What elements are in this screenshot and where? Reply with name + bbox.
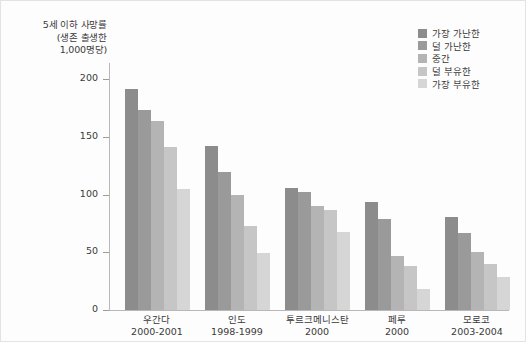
bar: [378, 219, 391, 310]
x-axis-group-label: 모로코2003-2004: [451, 314, 503, 338]
y-tick-label: 50: [86, 245, 98, 256]
y-tick-label: 100: [80, 188, 98, 199]
legend: 가장 가난한덜 가난한중간덜 부유한가장 부유한: [418, 27, 480, 90]
bar-group: 투르크메니스탄2000: [285, 62, 350, 310]
bar: [151, 121, 164, 310]
y-tick-mark: [103, 252, 109, 253]
legend-item: 덜 부유한: [418, 65, 480, 78]
bar: [324, 210, 337, 310]
bar-group: 모로코2003-2004: [445, 62, 510, 310]
bar: [391, 256, 404, 310]
bar: [417, 289, 430, 310]
x-axis-year-label: 2000-2001: [131, 326, 183, 338]
bar: [311, 206, 324, 310]
bar-group: 인도1998-1999: [205, 62, 270, 310]
bar: [458, 233, 471, 310]
y-tick-mark: [103, 137, 109, 138]
y-tick-mark: [103, 195, 109, 196]
bar: [365, 202, 378, 310]
legend-label: 가장 부유한: [432, 77, 480, 91]
plot-area: 050100150200 우간다2000-2001인도1998-1999투르크메…: [109, 63, 509, 311]
legend-item: 중간: [418, 52, 480, 65]
x-axis-country-label: 투르크메니스탄: [286, 314, 349, 326]
y-axis-line: [109, 63, 110, 311]
y-tick-mark: [103, 79, 109, 80]
y-axis-title-line-3: 1,000명당): [9, 44, 107, 57]
x-axis-year-label: 1998-1999: [211, 326, 263, 338]
bar: [244, 226, 257, 310]
bar: [231, 195, 244, 310]
bar: [285, 188, 298, 310]
bar: [445, 217, 458, 310]
legend-swatch-icon: [418, 67, 427, 76]
bar: [484, 264, 497, 310]
x-axis-group-label: 우간다2000-2001: [131, 314, 183, 338]
bar: [125, 89, 138, 310]
y-axis-title: 5세 이하 사망률 (생존 출생한 1,000명당): [9, 19, 107, 57]
y-tick-mark: [103, 310, 109, 311]
y-axis-title-line-2: (생존 출생한: [9, 32, 107, 45]
x-axis-country-label: 우간다: [131, 314, 183, 326]
legend-item: 가장 가난한: [418, 27, 480, 40]
bar: [337, 232, 350, 310]
x-axis-group-label: 인도1998-1999: [211, 314, 263, 338]
x-axis-country-label: 페루: [385, 314, 409, 326]
bar: [404, 266, 417, 310]
legend-swatch-icon: [418, 41, 427, 50]
bar: [205, 146, 218, 310]
bar-group: 페루2000: [365, 62, 430, 310]
x-axis-group-label: 투르크메니스탄2000: [286, 314, 349, 338]
x-axis-country-label: 모로코: [451, 314, 503, 326]
x-axis-year-label: 2000: [385, 326, 409, 338]
y-axis-title-line-1: 5세 이하 사망률: [9, 19, 107, 32]
legend-swatch-icon: [418, 79, 427, 88]
legend-swatch-icon: [418, 29, 427, 38]
x-axis-group-label: 페루2000: [385, 314, 409, 338]
x-axis-line: [109, 310, 509, 311]
y-tick-label: 200: [80, 72, 98, 83]
bar: [298, 192, 311, 310]
bar: [164, 147, 177, 310]
bar: [471, 252, 484, 310]
y-tick-label: 0: [92, 303, 98, 314]
bar: [218, 172, 231, 310]
bar-group: 우간다2000-2001: [125, 62, 190, 310]
x-axis-year-label: 2003-2004: [451, 326, 503, 338]
bar: [177, 189, 190, 310]
legend-item: 덜 가난한: [418, 40, 480, 53]
x-axis-country-label: 인도: [211, 314, 263, 326]
bar: [257, 253, 270, 310]
bar: [138, 110, 151, 310]
legend-item: 가장 부유한: [418, 77, 480, 90]
y-tick-label: 150: [80, 130, 98, 141]
chart-figure: 5세 이하 사망률 (생존 출생한 1,000명당) 050100150200 …: [0, 0, 526, 342]
legend-swatch-icon: [418, 54, 427, 63]
bar: [497, 277, 510, 310]
x-axis-year-label: 2000: [286, 326, 349, 338]
